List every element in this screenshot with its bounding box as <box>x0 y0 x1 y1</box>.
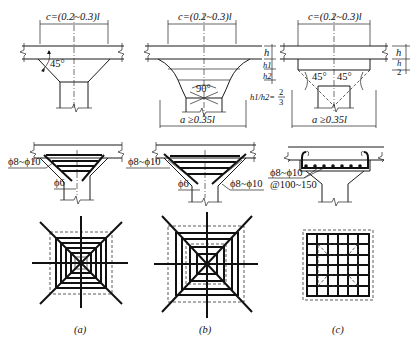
main-rebar-label: ϕ8~ϕ10 <box>8 156 40 167</box>
spacing-label: @100~150 <box>270 179 317 190</box>
caption-c: (c) <box>332 324 344 336</box>
rebar-a: ϕ8~ϕ10 ϕ6 <box>8 142 124 204</box>
capital-width-label: c=(0.2~0.3)l <box>178 11 232 23</box>
capital-width-label: c=(0.2~0.3)l <box>308 11 362 23</box>
h2-label: h2 <box>263 71 272 81</box>
section-c: c=(0.2~0.3)l 45° 45° h h 2 a ≥0.35l <box>280 11 410 128</box>
plan-c: (c) <box>303 230 373 336</box>
plan-a: (a) <box>32 216 128 336</box>
side-rebar-label: ϕ8~ϕ10 <box>230 178 262 189</box>
section-b: c=(0.2~0.3)l 90° h h1 h2 h1/h2= 2 3 <box>144 11 285 128</box>
main-rebar-label: ϕ8~ϕ10 <box>128 156 160 167</box>
tie-rebar-label: ϕ6 <box>178 178 189 189</box>
ratio-label: h1/h2= <box>250 92 275 102</box>
drop-width-label: a ≥0.35l <box>312 114 347 125</box>
h-label: h <box>264 47 269 58</box>
svg-text:3: 3 <box>279 97 283 107</box>
section-a: c=(0.2~0.3)l 45° <box>20 11 124 112</box>
plan-b: (b) <box>154 212 258 336</box>
angle-right-label: 45° <box>337 71 352 82</box>
column-capital-diagram: c=(0.2~0.3)l 45° c=(0.2~0.3)l <box>0 0 415 345</box>
drop-width-label: a ≥0.35l <box>180 114 215 125</box>
angle-left-label: 45° <box>312 71 327 82</box>
capital-width-label: c=(0.2~0.3)l <box>46 11 100 23</box>
rebar-b: ϕ8~ϕ10 ϕ6 ϕ8~ϕ10 <box>126 142 264 206</box>
svg-text:2: 2 <box>279 87 283 97</box>
main-rebar-label: ϕ8~ϕ10 <box>270 167 302 178</box>
h-label: h <box>396 47 401 58</box>
apex-angle-label: 90° <box>196 83 211 94</box>
caption-a: (a) <box>74 324 87 336</box>
rebar-c: ϕ8~ϕ10 @100~150 <box>268 147 384 206</box>
tie-rebar-label: ϕ6 <box>54 177 65 188</box>
h1-label: h1 <box>263 60 272 70</box>
svg-text:2: 2 <box>397 67 401 77</box>
caption-b: (b) <box>199 324 212 336</box>
angle-label: 45° <box>50 58 65 69</box>
